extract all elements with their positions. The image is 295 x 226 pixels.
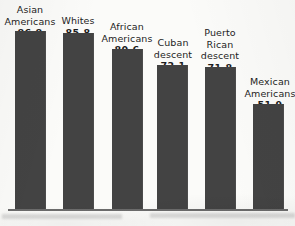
bar-category-line-1: Asian bbox=[0, 4, 68, 16]
baseline-smudge-left bbox=[2, 214, 122, 219]
bar-chart: Asian Americans 86.8 Whites 85.8 African… bbox=[0, 0, 295, 226]
bar-category-line-2: Rican bbox=[190, 39, 250, 51]
plot-area: Asian Americans 86.8 Whites 85.8 African… bbox=[0, 0, 295, 226]
baseline-smudge-right bbox=[150, 213, 295, 218]
bar-category-line-1: Puerto bbox=[190, 27, 250, 39]
bar-asian-americans bbox=[15, 31, 46, 210]
bar-category-line-2: Americans bbox=[232, 88, 295, 100]
bar-category-line-1: African bbox=[89, 21, 165, 33]
x-axis-baseline bbox=[8, 209, 288, 211]
bar-category-line-1: Mexican bbox=[232, 76, 295, 88]
bar-african-americans bbox=[112, 49, 143, 210]
bar-mexican-americans bbox=[253, 104, 284, 210]
bar-category-line-3: descent bbox=[190, 50, 250, 62]
bar-cuban-descent bbox=[157, 65, 188, 210]
bar-whites bbox=[63, 33, 94, 210]
